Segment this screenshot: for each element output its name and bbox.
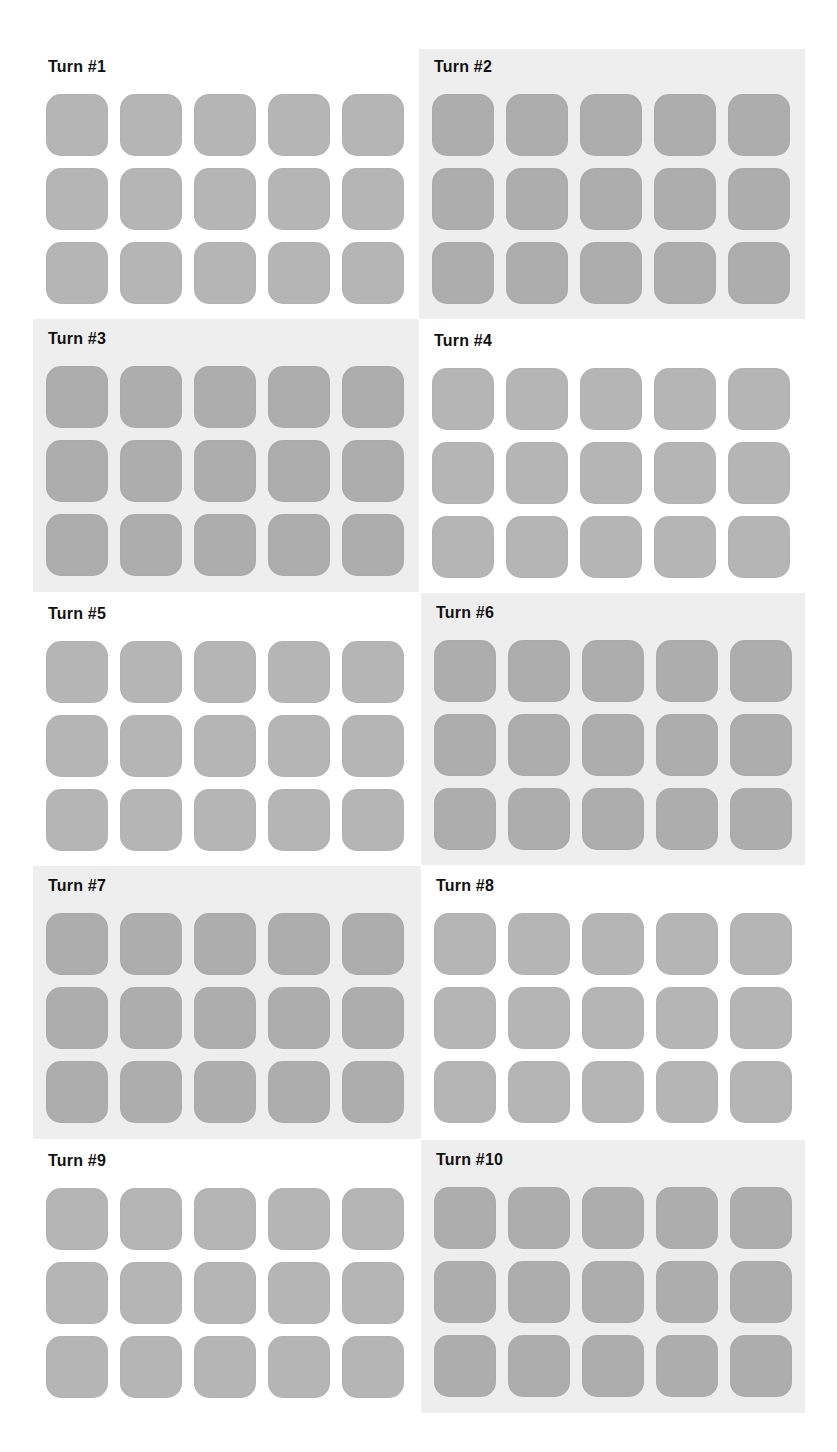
tile[interactable] xyxy=(46,366,108,428)
tile[interactable] xyxy=(342,1336,404,1398)
tile[interactable] xyxy=(46,641,108,703)
tile[interactable] xyxy=(730,987,792,1049)
tile[interactable] xyxy=(580,442,642,504)
tile[interactable] xyxy=(656,714,718,776)
tile[interactable] xyxy=(656,1187,718,1249)
tile[interactable] xyxy=(342,789,404,851)
tile[interactable] xyxy=(46,1061,108,1123)
tile[interactable] xyxy=(342,715,404,777)
tile[interactable] xyxy=(582,714,644,776)
tile[interactable] xyxy=(342,913,404,975)
tile[interactable] xyxy=(194,514,256,576)
tile[interactable] xyxy=(580,242,642,304)
tile[interactable] xyxy=(656,788,718,850)
tile[interactable] xyxy=(582,1061,644,1123)
tile[interactable] xyxy=(506,442,568,504)
tile[interactable] xyxy=(508,714,570,776)
tile[interactable] xyxy=(654,168,716,230)
tile[interactable] xyxy=(194,242,256,304)
tile[interactable] xyxy=(582,913,644,975)
tile[interactable] xyxy=(508,1187,570,1249)
tile[interactable] xyxy=(728,94,790,156)
tile[interactable] xyxy=(434,987,496,1049)
tile[interactable] xyxy=(46,715,108,777)
tile[interactable] xyxy=(508,788,570,850)
tile[interactable] xyxy=(342,366,404,428)
tile[interactable] xyxy=(342,514,404,576)
tile[interactable] xyxy=(654,442,716,504)
tile[interactable] xyxy=(268,1188,330,1250)
tile[interactable] xyxy=(434,1061,496,1123)
tile[interactable] xyxy=(656,913,718,975)
tile[interactable] xyxy=(580,94,642,156)
tile[interactable] xyxy=(194,987,256,1049)
tile[interactable] xyxy=(728,368,790,430)
tile[interactable] xyxy=(120,1061,182,1123)
tile[interactable] xyxy=(120,366,182,428)
tile[interactable] xyxy=(268,242,330,304)
tile[interactable] xyxy=(434,640,496,702)
tile[interactable] xyxy=(580,168,642,230)
tile[interactable] xyxy=(268,1262,330,1324)
tile[interactable] xyxy=(268,1336,330,1398)
tile[interactable] xyxy=(582,788,644,850)
tile[interactable] xyxy=(120,641,182,703)
tile[interactable] xyxy=(46,913,108,975)
tile[interactable] xyxy=(120,1262,182,1324)
tile[interactable] xyxy=(268,1061,330,1123)
tile[interactable] xyxy=(730,714,792,776)
tile[interactable] xyxy=(46,987,108,1049)
tile[interactable] xyxy=(120,987,182,1049)
tile[interactable] xyxy=(120,514,182,576)
tile[interactable] xyxy=(432,442,494,504)
tile[interactable] xyxy=(654,516,716,578)
tile[interactable] xyxy=(654,242,716,304)
tile[interactable] xyxy=(728,516,790,578)
tile[interactable] xyxy=(506,242,568,304)
tile[interactable] xyxy=(46,1188,108,1250)
tile[interactable] xyxy=(120,1188,182,1250)
tile[interactable] xyxy=(582,1335,644,1397)
tile[interactable] xyxy=(342,168,404,230)
tile[interactable] xyxy=(730,788,792,850)
tile[interactable] xyxy=(194,1188,256,1250)
tile[interactable] xyxy=(46,789,108,851)
tile[interactable] xyxy=(342,987,404,1049)
tile[interactable] xyxy=(342,1262,404,1324)
tile[interactable] xyxy=(194,94,256,156)
tile[interactable] xyxy=(582,640,644,702)
tile[interactable] xyxy=(342,1188,404,1250)
tile[interactable] xyxy=(342,242,404,304)
tile[interactable] xyxy=(508,1335,570,1397)
tile[interactable] xyxy=(268,366,330,428)
tile[interactable] xyxy=(506,368,568,430)
tile[interactable] xyxy=(432,94,494,156)
tile[interactable] xyxy=(268,715,330,777)
tile[interactable] xyxy=(194,641,256,703)
tile[interactable] xyxy=(434,788,496,850)
tile[interactable] xyxy=(46,1262,108,1324)
tile[interactable] xyxy=(194,715,256,777)
tile[interactable] xyxy=(342,440,404,502)
tile[interactable] xyxy=(120,168,182,230)
tile[interactable] xyxy=(46,1336,108,1398)
tile[interactable] xyxy=(194,1262,256,1324)
tile[interactable] xyxy=(508,987,570,1049)
tile[interactable] xyxy=(656,1261,718,1323)
tile[interactable] xyxy=(508,1261,570,1323)
tile[interactable] xyxy=(120,789,182,851)
tile[interactable] xyxy=(120,1336,182,1398)
tile[interactable] xyxy=(194,789,256,851)
tile[interactable] xyxy=(46,514,108,576)
tile[interactable] xyxy=(120,913,182,975)
tile[interactable] xyxy=(728,442,790,504)
tile[interactable] xyxy=(730,1187,792,1249)
tile[interactable] xyxy=(434,913,496,975)
tile[interactable] xyxy=(120,94,182,156)
tile[interactable] xyxy=(730,640,792,702)
tile[interactable] xyxy=(728,168,790,230)
tile[interactable] xyxy=(194,366,256,428)
tile[interactable] xyxy=(434,1335,496,1397)
tile[interactable] xyxy=(580,368,642,430)
tile[interactable] xyxy=(194,168,256,230)
